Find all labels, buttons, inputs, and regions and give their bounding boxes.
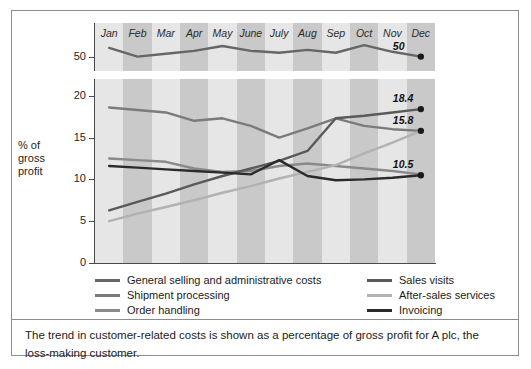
legend-swatch-invoicing: [367, 309, 392, 312]
legend-swatch-sales-visits: [367, 279, 392, 282]
x-tick-label-oct: Oct: [350, 24, 378, 42]
legend-item-sales-visits[interactable]: Sales visits: [367, 273, 495, 287]
legend-swatch-general-selling-and-administrative-costs: [95, 279, 120, 282]
x-tick-label-sep: Sep: [322, 24, 350, 42]
x-tick-label-apr: Apr: [180, 24, 208, 42]
legend-label-invoicing: Invoicing: [399, 303, 442, 317]
legend-column-left: General selling and administrative costs…: [95, 273, 321, 318]
legend-label-after-sales-services: After-sales services: [399, 288, 495, 302]
caption-box: The trend in customer-related costs is s…: [12, 319, 518, 355]
legend-item-after-sales-services[interactable]: After-sales services: [367, 288, 495, 302]
chart-area: JanFebMarAprMayJuneJulyAugSepOctNovDec 5…: [12, 11, 518, 269]
value-label-after-sales-services: 15.8: [393, 114, 413, 126]
legend-swatch-after-sales-services: [367, 294, 392, 297]
legend-label-sales-visits: Sales visits: [399, 273, 454, 287]
legend-label-shipment-processing: Shipment processing: [127, 288, 230, 302]
x-tick-label-may: May: [208, 24, 236, 42]
x-tick-label-dec: Dec: [407, 24, 435, 42]
legend-label-general-selling-and-administrative-costs: General selling and administrative costs: [127, 273, 321, 287]
series-line-sales-visits: [109, 109, 421, 210]
series-line-after-sales-services: [109, 131, 421, 221]
x-tick-label-jan: Jan: [95, 24, 123, 42]
series-line-general-selling-and-administrative-costs: [109, 45, 421, 57]
caption-text: The trend in customer-related costs is s…: [25, 326, 503, 362]
legend-label-order-handling: Order handling: [127, 303, 200, 317]
legend-swatch-order-handling: [95, 309, 120, 312]
series-lines: [12, 11, 518, 269]
chart-legend: General selling and administrative costs…: [95, 273, 505, 317]
x-axis-month-labels: JanFebMarAprMayJuneJulyAugSepOctNovDec: [95, 24, 435, 42]
legend-item-shipment-processing[interactable]: Shipment processing: [95, 288, 321, 302]
value-label-general-selling-and-administrative-costs: 50: [393, 40, 405, 52]
endpoint-dot-general-selling-and-administrative-costs: [418, 53, 424, 59]
value-label-invoicing: 10.5: [393, 158, 413, 170]
endpoint-dot-after-sales-services: [418, 128, 424, 134]
x-tick-label-feb: Feb: [123, 24, 151, 42]
endpoint-dot-sales-visits: [418, 106, 424, 112]
series-line-shipment-processing: [109, 107, 421, 137]
legend-item-invoicing[interactable]: Invoicing: [367, 303, 495, 317]
x-tick-label-mar: Mar: [152, 24, 180, 42]
endpoint-dot-invoicing: [418, 172, 424, 178]
legend-item-order-handling[interactable]: Order handling: [95, 303, 321, 317]
value-label-sales-visits: 18.4: [393, 92, 413, 104]
legend-swatch-shipment-processing: [95, 294, 120, 297]
legend-item-general-selling-and-administrative-costs[interactable]: General selling and administrative costs: [95, 273, 321, 287]
x-tick-label-july: July: [265, 24, 293, 42]
x-tick-label-aug: Aug: [293, 24, 321, 42]
figure-frame: JanFebMarAprMayJuneJulyAugSepOctNovDec 5…: [11, 10, 519, 356]
x-tick-label-june: June: [237, 24, 265, 42]
legend-column-right: Sales visitsAfter-sales servicesInvoicin…: [367, 273, 495, 318]
